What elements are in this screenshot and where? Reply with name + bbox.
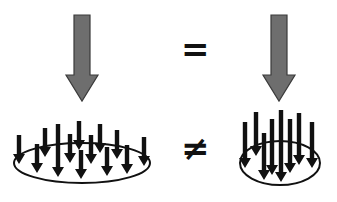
small-down-arrow-icon xyxy=(75,150,87,179)
small-down-arrow-icon xyxy=(52,124,64,177)
down-arrow-shape xyxy=(66,15,98,101)
distributed-load-group xyxy=(13,121,150,183)
small-down-arrow-icon xyxy=(94,124,106,153)
small-down-arrow-icon xyxy=(64,134,76,163)
not-equals-sign: ≠ xyxy=(181,131,210,165)
small-down-arrow-icon xyxy=(85,135,97,164)
small-down-arrow-icon xyxy=(258,133,270,180)
down-arrow-shape xyxy=(263,15,295,101)
small-down-arrow-icon xyxy=(250,112,262,156)
concentrated-load-group xyxy=(239,110,320,185)
small-down-arrow-icon xyxy=(284,119,296,173)
small-down-arrow-icon xyxy=(266,119,278,175)
diagram-canvas xyxy=(0,0,337,202)
equals-sign: = xyxy=(181,32,210,66)
small-down-arrow-icon xyxy=(101,147,113,176)
large-arrow-right-icon xyxy=(263,15,295,101)
small-down-arrow-icon xyxy=(275,110,287,182)
large-arrow-left-icon xyxy=(66,15,98,101)
small-down-arrow-icon xyxy=(293,113,305,165)
small-down-arrow-icon xyxy=(73,121,85,150)
small-down-arrow-icon xyxy=(306,122,318,168)
small-down-arrow-icon xyxy=(39,128,51,157)
